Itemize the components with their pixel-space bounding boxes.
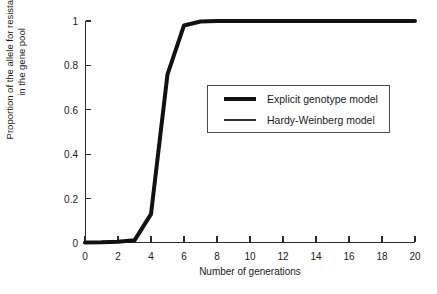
y-axis-title: Proportion of the allele for resistance … <box>0 0 40 162</box>
legend-item-explicit-genotype: Explicit genotype model <box>208 89 389 109</box>
x-tick-label: 20 <box>409 251 420 262</box>
x-tick-label: 12 <box>277 251 288 262</box>
legend-swatch-thick-icon <box>223 97 257 101</box>
x-tick-label: 16 <box>343 251 354 262</box>
x-tick-label: 18 <box>376 251 387 262</box>
x-tick-label: 4 <box>148 251 154 262</box>
x-tick-label: 8 <box>214 251 220 262</box>
y-axis-title-line1: Proportion of the allele for resistance <box>4 0 15 139</box>
chart-figure: Proportion of the allele for resistance … <box>0 0 437 294</box>
legend-label-hardy-weinberg: Hardy-Weinberg model <box>267 114 375 126</box>
x-tick-label: 10 <box>244 251 255 262</box>
x-tick-label: 6 <box>181 251 187 262</box>
x-tick-label: 0 <box>82 251 88 262</box>
legend-item-hardy-weinberg: Hardy-Weinberg model <box>208 110 389 130</box>
x-axis-title: Number of generations <box>85 266 415 277</box>
legend-label-explicit-genotype: Explicit genotype model <box>267 93 378 105</box>
legend-swatch-thin-icon <box>223 119 257 120</box>
chart-legend: Explicit genotype model Hardy-Weinberg m… <box>207 85 390 133</box>
y-tick-label: 0.8 <box>64 60 78 71</box>
x-tick-layer: 02468101214161820 <box>85 242 415 268</box>
y-tick-label: 0 <box>72 238 78 249</box>
y-axis-title-line2: in the gene pool <box>16 0 28 162</box>
y-tick-label: 1 <box>72 16 78 27</box>
x-tick-label: 14 <box>310 251 321 262</box>
y-tick-label: 0.4 <box>64 149 78 160</box>
x-tick-label: 2 <box>115 251 121 262</box>
y-tick-label: 0.6 <box>64 104 78 115</box>
y-tick-label: 0.2 <box>64 193 78 204</box>
